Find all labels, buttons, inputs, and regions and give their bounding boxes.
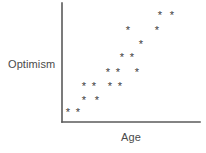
data-markers-group: ****************** xyxy=(66,9,175,118)
data-point-marker: * xyxy=(82,80,87,92)
data-point-marker: * xyxy=(118,80,123,92)
data-point-marker: * xyxy=(135,66,140,78)
data-point-marker: * xyxy=(95,94,100,106)
data-point-marker: * xyxy=(106,66,111,78)
data-point-marker: * xyxy=(170,9,175,21)
data-point-marker: * xyxy=(66,106,71,118)
y-axis-label: Optimism xyxy=(8,58,55,71)
data-point-marker: * xyxy=(120,51,125,63)
data-point-marker: * xyxy=(130,51,135,63)
x-axis-label: Age xyxy=(121,131,141,144)
plot-area: ****************** xyxy=(0,0,206,153)
data-point-marker: * xyxy=(82,94,87,106)
data-point-marker: * xyxy=(158,9,163,21)
data-point-marker: * xyxy=(155,24,160,36)
scatter-plot-figure: ****************** Optimism Age xyxy=(0,0,206,153)
data-point-marker: * xyxy=(116,66,121,78)
data-point-marker: * xyxy=(139,38,144,50)
data-point-marker: * xyxy=(126,24,131,36)
data-point-marker: * xyxy=(108,80,113,92)
data-point-marker: * xyxy=(92,80,97,92)
data-point-marker: * xyxy=(76,106,81,118)
